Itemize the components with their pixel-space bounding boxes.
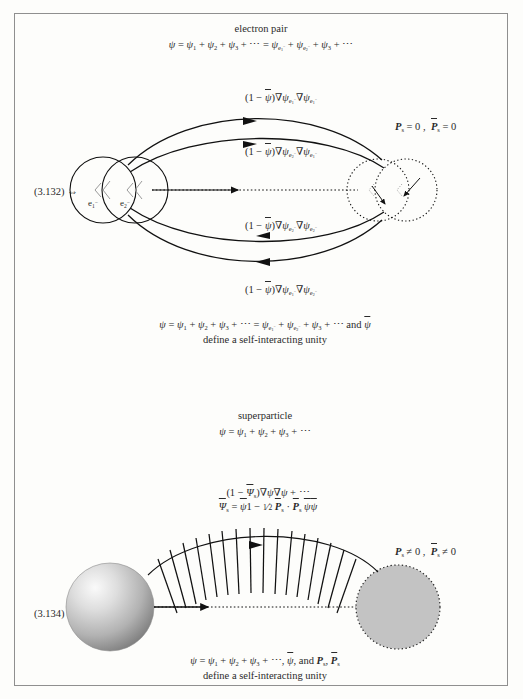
top-equation: ψ = ψ1 + ψ2 + ψ3 + ⋯ = ψe1− + ψe2− + ψ3 … bbox=[169, 38, 353, 51]
eq-number-3134: (3.134) ⇔ bbox=[34, 607, 78, 620]
top-caption-line1: ψ = ψ1 + ψ2 + ψ3 + ⋯ = ψe1− + ψe2− + ψ3 … bbox=[159, 318, 370, 331]
bottom-title: superparticle bbox=[238, 409, 292, 422]
bottom-right-condition: Ps ≠ 0 , Ps ≠ 0 bbox=[395, 545, 456, 558]
bottom-equation: ψ = ψ1 + ψ2 + ψ3 + ⋯ bbox=[219, 425, 311, 438]
arc-label-4: (1 − ψ)∇ψe1−∇ψe2− bbox=[245, 283, 317, 296]
node-label-e2: e2− bbox=[120, 198, 130, 209]
arc-label-1: (1 − ψ)∇ψe1−∇ψe1− bbox=[245, 91, 317, 104]
top-right-condition: Ps = 0 , Ps = 0 bbox=[395, 120, 456, 133]
top-title: electron pair bbox=[235, 22, 288, 35]
field-label-line2: Ψs = ψ1 − 1⁄2 Ps · Ps ψψ bbox=[219, 500, 317, 513]
bottom-caption-line2: define a self-interacting unity bbox=[203, 669, 327, 682]
bottom-caption-line1: ψ = ψ1 + ψ2 + ψ3 + ⋯, ψ, and Ps, Ps bbox=[190, 654, 340, 667]
figure-border bbox=[14, 13, 508, 686]
arc-label-3: (1 − ψ)∇ψe2−∇ψe2− bbox=[245, 219, 317, 232]
top-caption-line2: define a self-interacting unity bbox=[203, 333, 327, 346]
eq-number-3132: (3.132) ⇔ bbox=[34, 185, 78, 198]
field-label-line1: (1 − Ψs)∇ψ∇ψ + ⋯ bbox=[226, 486, 309, 499]
figure-page: electron pair ψ = ψ1 + ψ2 + ψ3 + ⋯ = ψe1… bbox=[0, 0, 523, 699]
arc-label-2: (1 − ψ)∇ψe2−∇ψe1− bbox=[245, 145, 317, 158]
node-label-e1: e1− bbox=[88, 198, 98, 209]
